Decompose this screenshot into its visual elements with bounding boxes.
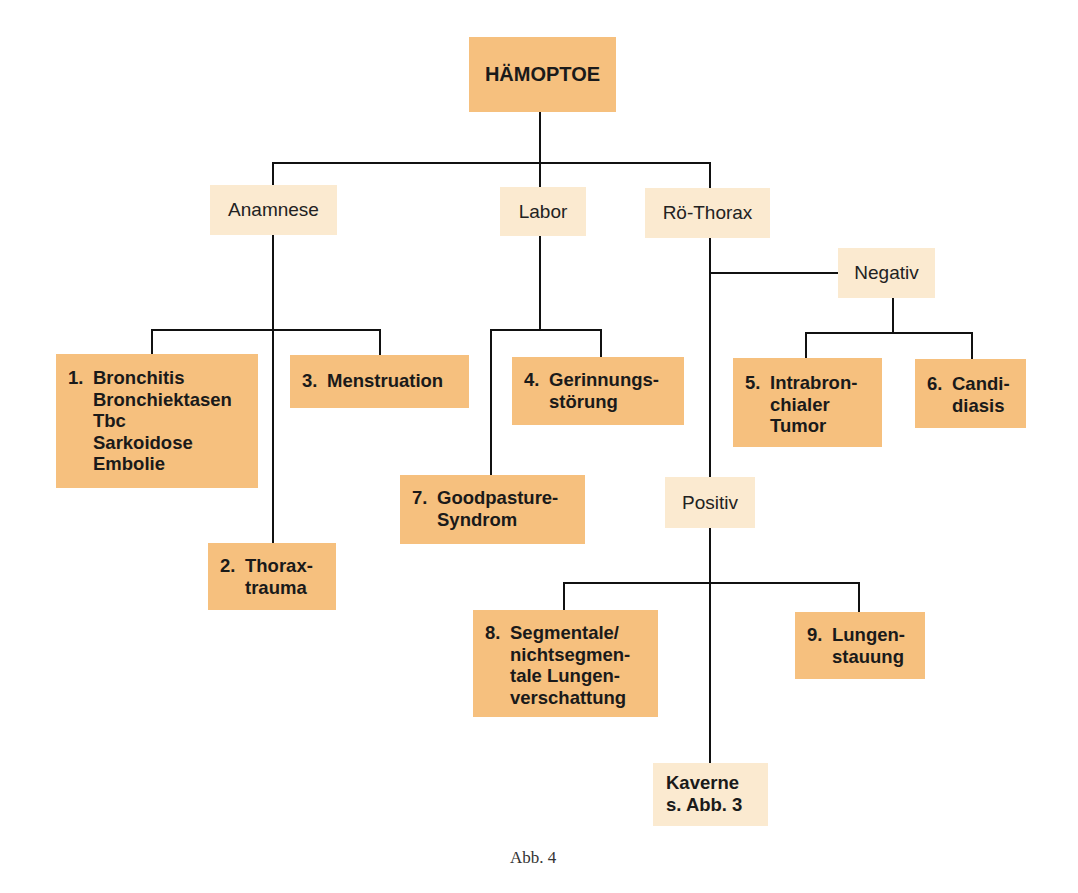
connector-to-leaf-8 — [563, 582, 565, 611]
leaf-4-gerinnungsstoerung: 4. Gerinnungs- störung — [512, 357, 684, 425]
leaf-5-intrabronchialer-tumor: 5. Intrabron- chialer Tumor — [733, 358, 882, 447]
connector-to-leaf-3 — [379, 329, 381, 356]
leaf-8-line: tale Lungen- — [510, 665, 630, 687]
leaf-1-bronchitis: 1. Bronchitis Bronchiektasen Tbc Sarkoid… — [56, 354, 258, 488]
leaf-5-line: Tumor — [770, 415, 857, 437]
reference-kaverne: Kaverne s. Abb. 3 — [653, 763, 768, 826]
leaf-9-number: 9. — [807, 624, 832, 667]
reference-line: s. Abb. 3 — [666, 794, 768, 816]
leaf-7-line: Syndrom — [437, 509, 558, 531]
leaf-7-number: 7. — [412, 487, 437, 530]
leaf-6-number: 6. — [927, 373, 952, 416]
category-roe-thorax-label: Rö-Thorax — [663, 202, 753, 224]
subcategory-positiv-label: Positiv — [682, 492, 738, 514]
subcategory-positiv: Positiv — [665, 477, 755, 528]
leaf-2-number: 2. — [220, 555, 245, 598]
leaf-3-menstruation: 3. Menstruation — [290, 355, 469, 408]
connector-to-leaf-4 — [600, 329, 602, 358]
connector-to-negativ — [709, 272, 839, 274]
leaf-4-line: Gerinnungs- — [549, 369, 659, 391]
connector-labor-down — [539, 236, 541, 331]
category-labor: Labor — [500, 187, 586, 236]
leaf-5-line: chialer — [770, 394, 857, 416]
leaf-2-line: trauma — [245, 577, 313, 599]
root-label: HÄMOPTOE — [485, 63, 600, 86]
connector-roe-thorax-down — [709, 238, 711, 478]
connector-to-roe-thorax — [709, 162, 711, 189]
connector-positiv-down — [709, 528, 711, 764]
leaf-1-line: Bronchitis — [93, 367, 232, 389]
leaf-9-line: Lungen- — [832, 624, 905, 646]
leaf-7-line: Goodpasture- — [437, 487, 558, 509]
leaf-8-line: verschattung — [510, 687, 630, 709]
leaf-1-line: Sarkoidose — [93, 432, 232, 454]
connector-top-bar — [272, 162, 711, 164]
leaf-5-line: Intrabron- — [770, 372, 857, 394]
leaf-7-goodpasture-syndrom: 7. Goodpasture- Syndrom — [400, 475, 585, 544]
connector-to-leaf-1 — [151, 329, 153, 355]
leaf-1-line: Embolie — [93, 453, 232, 475]
leaf-4-number: 4. — [524, 369, 549, 412]
leaf-6-candidiasis: 6. Candi- diasis — [915, 359, 1026, 428]
leaf-1-line: Tbc — [93, 410, 232, 432]
reference-line: Kaverne — [666, 772, 768, 794]
leaf-5-number: 5. — [745, 372, 770, 437]
leaf-8-number: 8. — [485, 622, 510, 708]
leaf-8-line: nichtsegmen- — [510, 644, 630, 666]
category-labor-label: Labor — [519, 201, 568, 223]
connector-to-leaf-5 — [805, 332, 807, 359]
leaf-6-line: diasis — [952, 395, 1010, 417]
connector-positiv-bar — [563, 582, 860, 584]
leaf-6-line: Candi- — [952, 373, 1010, 395]
leaf-2-line: Thorax- — [245, 555, 313, 577]
connector-anamnese-bar — [151, 329, 381, 331]
connector-to-anamnese — [272, 162, 274, 186]
category-anamnese-label: Anamnese — [228, 199, 319, 221]
leaf-2-thoraxtrauma: 2. Thorax- trauma — [208, 543, 336, 610]
subcategory-negativ: Negativ — [838, 248, 935, 298]
connector-anamnese-down — [272, 235, 274, 544]
leaf-3-line: Menstruation — [327, 370, 443, 392]
leaf-1-number: 1. — [68, 367, 93, 475]
leaf-9-lungenstauung: 9. Lungen- stauung — [795, 612, 925, 679]
connector-to-leaf-7 — [490, 329, 492, 476]
connector-labor-bar — [490, 329, 602, 331]
leaf-8-lungenverschattung: 8. Segmentale/ nichtsegmen- tale Lungen-… — [473, 610, 658, 717]
connector-to-leaf-9 — [858, 582, 860, 613]
connector-negativ-bar — [805, 332, 973, 334]
leaf-3-number: 3. — [302, 370, 327, 392]
leaf-9-line: stauung — [832, 646, 905, 668]
connector-root-down — [539, 112, 541, 164]
category-anamnese: Anamnese — [210, 185, 337, 235]
figure-caption: Abb. 4 — [510, 848, 556, 868]
leaf-8-line: Segmentale/ — [510, 622, 630, 644]
connector-to-labor — [539, 162, 541, 188]
leaf-1-line: Bronchiektasen — [93, 389, 232, 411]
connector-negativ-down — [892, 298, 894, 334]
connector-to-leaf-6 — [971, 332, 973, 360]
root-node: HÄMOPTOE — [469, 37, 616, 112]
category-roe-thorax: Rö-Thorax — [645, 188, 770, 238]
leaf-4-line: störung — [549, 391, 659, 413]
subcategory-negativ-label: Negativ — [854, 262, 918, 284]
